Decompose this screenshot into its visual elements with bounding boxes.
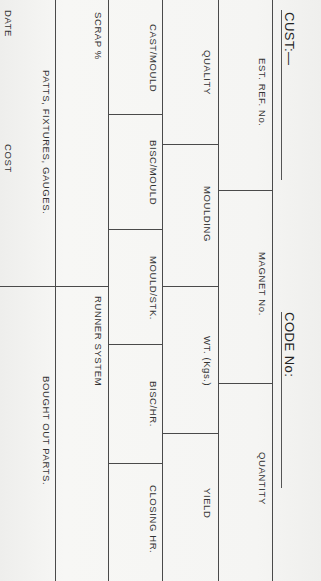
cost-label: COST bbox=[3, 144, 14, 173]
column-rule bbox=[108, 0, 109, 581]
estimate-form: CUST:— CODE No: EST. REF. No. MAGNET No.… bbox=[0, 0, 321, 581]
cell-divider bbox=[218, 383, 272, 384]
moulding-label: MOULDING bbox=[202, 186, 213, 242]
code-label: CODE No: bbox=[282, 312, 297, 377]
customer-label: CUST:— bbox=[282, 12, 297, 66]
cell-divider bbox=[0, 286, 55, 287]
bisc-mould-label: BISC/MOULD bbox=[148, 140, 159, 205]
runner-system-label: RUNNER SYSTEM bbox=[93, 296, 104, 386]
patterns-fixtures-label: PATTS, FIXTURES, GAUGES. bbox=[41, 70, 52, 214]
cell-divider bbox=[162, 144, 218, 145]
yield-label: YIELD bbox=[202, 488, 213, 518]
column-rule bbox=[272, 0, 273, 581]
column-rule bbox=[55, 0, 56, 581]
cell-divider bbox=[162, 433, 218, 434]
cell-divider bbox=[55, 286, 108, 287]
scrap-label: SCRAP % bbox=[93, 12, 104, 60]
weight-label: WT. (Kgs.) bbox=[202, 336, 213, 386]
closing-hr-label: CLOSING HR. bbox=[148, 485, 159, 553]
est-ref-label: EST. REF. No. bbox=[257, 58, 268, 127]
cell-divider bbox=[108, 114, 162, 115]
customer-field-line[interactable] bbox=[281, 10, 282, 180]
cell-divider bbox=[108, 463, 162, 464]
code-field-line[interactable] bbox=[281, 312, 282, 488]
magnet-label: MAGNET No. bbox=[257, 252, 268, 316]
cell-divider bbox=[108, 229, 162, 230]
column-rule bbox=[162, 0, 163, 581]
mould-stk-label: MOULD/STK. bbox=[148, 256, 159, 320]
cast-mould-label: CAST/MOULD bbox=[148, 24, 159, 92]
date-label: DATE bbox=[3, 10, 14, 37]
quantity-label: QUANTITY bbox=[257, 452, 268, 505]
column-rule bbox=[218, 0, 219, 581]
bought-out-parts-label: BOUGHT OUT PARTS. bbox=[41, 376, 52, 485]
bisc-hr-label: BISC/HR. bbox=[148, 381, 159, 427]
quality-label: QUALITY bbox=[202, 50, 213, 95]
cell-divider bbox=[162, 286, 218, 287]
cell-divider bbox=[108, 344, 162, 345]
cell-divider bbox=[218, 190, 272, 191]
